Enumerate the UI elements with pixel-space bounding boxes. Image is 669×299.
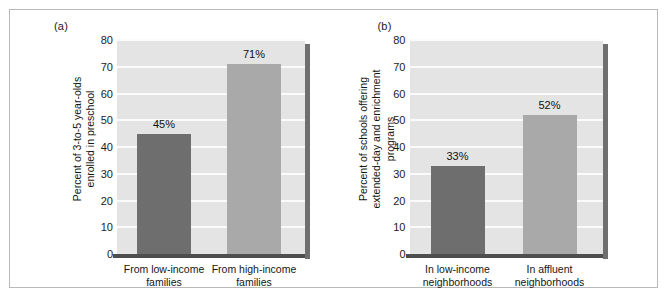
bar-value-label: 33% — [446, 150, 468, 162]
y-tick-label: 50 — [393, 114, 405, 126]
bar — [227, 64, 281, 254]
y-tick-label: 60 — [101, 88, 113, 100]
y-tick-label: 30 — [393, 168, 405, 180]
x-axis-category-line: families — [212, 276, 297, 289]
panel-b-x-axis-line — [406, 254, 603, 258]
x-axis-category-line: In low-income — [423, 263, 492, 276]
bar-value-label: 71% — [243, 48, 265, 60]
panel-a-y-axis-title-line1: Percent of 3-to-5 year-olds — [71, 77, 83, 201]
gridline — [117, 39, 305, 41]
x-axis-category-label: In low-incomeneighborhoods — [423, 263, 492, 289]
chart-panel-b: (b) Percent of schools offering extended… — [334, 10, 658, 287]
y-tick-label: 10 — [393, 221, 405, 233]
bar-value-label: 45% — [153, 118, 175, 130]
x-axis-category-line: From high-income — [212, 263, 297, 276]
figure-frame: (a) Percent of 3-to-5 year-olds enrolled… — [9, 9, 658, 288]
x-axis-category-label: In affluentneighborhoods — [515, 263, 584, 289]
panel-a-plot-area — [117, 40, 305, 254]
y-tick-label: 40 — [101, 141, 113, 153]
x-axis-category-line: In affluent — [515, 263, 584, 276]
panel-container: (a) Percent of 3-to-5 year-olds enrolled… — [10, 10, 657, 287]
y-tick-label: 20 — [393, 195, 405, 207]
bar — [431, 166, 485, 254]
y-tick-label: 40 — [393, 141, 405, 153]
x-axis-category-line: families — [124, 276, 205, 289]
x-axis-category-label: From high-incomefamilies — [212, 263, 297, 289]
bar-value-label: 52% — [538, 99, 560, 111]
panel-b-label: (b) — [378, 20, 392, 32]
y-tick-label: 10 — [101, 221, 113, 233]
panel-a-x-axis-line — [113, 254, 305, 258]
panel-a-plot-shadow — [305, 44, 310, 259]
gridline — [410, 66, 603, 68]
bar — [523, 115, 577, 254]
y-tick-label: 70 — [101, 61, 113, 73]
panel-a-y-axis-ticks: 01020304050607080 — [91, 40, 113, 254]
panel-a-label: (a) — [54, 20, 68, 32]
y-tick-label: 80 — [101, 34, 113, 46]
chart-panel-a: (a) Percent of 3-to-5 year-olds enrolled… — [10, 10, 334, 287]
y-tick-label: 60 — [393, 88, 405, 100]
panel-b-y-axis-title-line2: extended-day and enrichment — [370, 70, 382, 209]
y-tick-label: 50 — [101, 114, 113, 126]
panel-b-plot-area — [410, 40, 603, 254]
y-tick-label: 30 — [101, 168, 113, 180]
y-tick-label: 70 — [393, 61, 405, 73]
y-tick-label: 20 — [101, 195, 113, 207]
bar — [137, 134, 191, 254]
x-axis-category-line: From low-income — [124, 263, 205, 276]
x-axis-category-line: neighborhoods — [515, 276, 584, 289]
panel-b-y-axis-ticks: 01020304050607080 — [384, 40, 406, 254]
panel-b-plot-shadow — [603, 44, 608, 259]
gridline — [410, 39, 603, 41]
x-axis-category-line: neighborhoods — [423, 276, 492, 289]
gridline — [410, 93, 603, 95]
panel-b-y-axis-title-line1: Percent of schools offering — [356, 77, 368, 201]
x-axis-category-label: From low-incomefamilies — [124, 263, 205, 289]
y-tick-label: 80 — [393, 34, 405, 46]
